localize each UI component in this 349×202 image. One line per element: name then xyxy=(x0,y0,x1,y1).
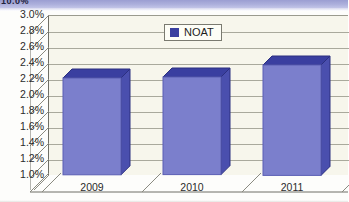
x-axis-tick-label: 2011 xyxy=(262,182,322,193)
bottom-edge-shadow xyxy=(0,200,348,202)
x-axis-tick-label: 2010 xyxy=(162,182,222,193)
x-axis-tick-label: 2009 xyxy=(62,182,122,193)
